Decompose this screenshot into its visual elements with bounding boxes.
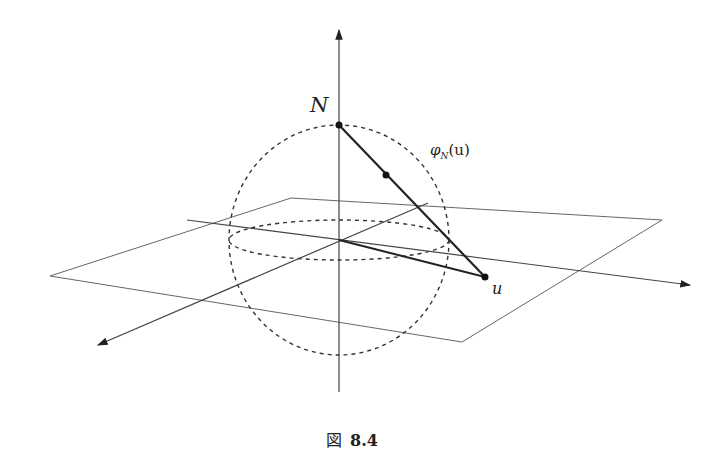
label-projection: φN(u): [430, 141, 470, 161]
point-u: [482, 274, 489, 281]
north-pole-point: [336, 122, 343, 129]
figure-caption: 図8.4: [326, 431, 378, 450]
origin-to-u-segment: [339, 240, 485, 277]
label-point-u: u: [492, 279, 502, 298]
sphere-point: [383, 172, 390, 179]
stereographic-projection-figure: N φN(u) u 図8.4: [0, 0, 723, 456]
depth-axis: [98, 203, 428, 345]
label-north-pole: N: [309, 93, 329, 117]
